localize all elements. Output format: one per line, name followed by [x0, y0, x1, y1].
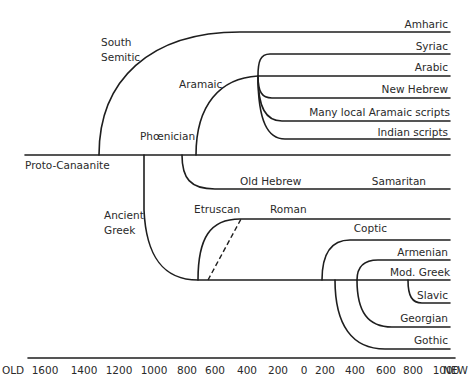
- axis-tick-label: 200: [315, 364, 335, 376]
- axis-end-label: NEW: [443, 364, 468, 376]
- axis-tick-label: 200: [268, 364, 288, 376]
- axis-start-label: OLD: [2, 364, 24, 376]
- leaf-slavic: Slavic: [417, 289, 448, 301]
- leaf-samaritan: Samaritan: [372, 175, 426, 187]
- leaf-new-hebrew: New Hebrew: [382, 83, 449, 95]
- label-south-semitic-1: South: [101, 36, 132, 48]
- leaf-many-local-aramaic: Many local Aramaic scripts: [309, 106, 450, 118]
- leaf-mod-greek: Mod. Greek: [390, 266, 451, 278]
- leaf-gothic: Gothic: [414, 334, 448, 346]
- axis-tick-label: 600: [376, 364, 396, 376]
- axis-tick-label: 600: [205, 364, 225, 376]
- axis-tick-label: 400: [237, 364, 257, 376]
- label-ancient-greek-1: Ancient: [104, 209, 144, 221]
- script-evolution-diagram: South Semitic Aramaic Phœnician Proto-Ca…: [0, 0, 470, 378]
- axis-tick-label: 1400: [71, 364, 98, 376]
- leaf-amharic: Amharic: [404, 18, 448, 30]
- label-aramaic: Aramaic: [179, 78, 223, 90]
- axis-tick-label: 800: [177, 364, 197, 376]
- leaf-arabic: Arabic: [415, 61, 449, 73]
- axis-tick-label: 1600: [32, 364, 59, 376]
- axis-tick-label: 800: [403, 364, 423, 376]
- label-old-hebrew: Old Hebrew: [240, 175, 302, 187]
- axis-ticks: 1600140012001000800600400200020040060080…: [32, 364, 460, 376]
- leaf-georgian: Georgian: [400, 312, 448, 324]
- axis-tick-label: 1200: [106, 364, 133, 376]
- leaf-syriac: Syriac: [416, 40, 449, 52]
- axis-tick-label: 1000: [141, 364, 168, 376]
- label-roman: Roman: [270, 203, 307, 215]
- label-etruscan: Etruscan: [194, 203, 240, 215]
- leaf-indian-scripts: Indian scripts: [378, 126, 449, 138]
- ancient-greek-branch: [144, 155, 450, 280]
- leaf-coptic: Coptic: [354, 222, 387, 234]
- axis-tick-label: 400: [345, 364, 365, 376]
- axis-tick-label: 0: [301, 364, 308, 376]
- label-proto-canaanite: Proto-Canaanite: [25, 159, 110, 171]
- leaf-armenian: Armenian: [397, 246, 448, 258]
- label-ancient-greek-2: Greek: [104, 224, 136, 236]
- label-phoenician: Phœnician: [140, 130, 195, 142]
- label-south-semitic-2: Semitic: [101, 51, 140, 63]
